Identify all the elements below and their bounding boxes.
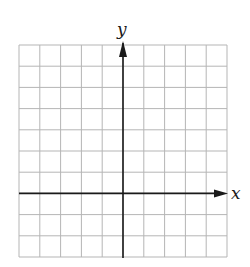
x-axis-arrow-icon: [214, 189, 228, 197]
coordinate-plane: x y: [0, 0, 250, 267]
y-axis-arrow-icon: [119, 41, 127, 57]
y-axis-label: y: [116, 19, 127, 39]
x-axis-label: x: [231, 183, 241, 203]
